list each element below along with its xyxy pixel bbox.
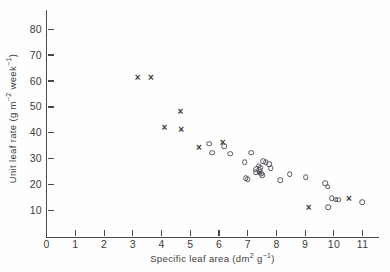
x-tick-label: 1 xyxy=(65,239,85,250)
axis-title-text: Specific leaf area (dm xyxy=(150,253,250,264)
x-tick-label: 10 xyxy=(324,239,344,250)
y-tick xyxy=(48,210,54,211)
y-tick xyxy=(48,158,54,159)
x-tick-label: 2 xyxy=(94,239,114,250)
data-point-cross xyxy=(256,169,264,177)
x-tick-label: 3 xyxy=(123,239,143,250)
x-tick-label: 0 xyxy=(37,239,57,250)
data-point-circle xyxy=(254,166,260,172)
y-tick-label: 60 xyxy=(16,76,42,87)
y-tick-label: 50 xyxy=(16,101,42,112)
data-point-cross xyxy=(219,139,227,147)
data-point-circle xyxy=(325,184,331,190)
x-tick xyxy=(75,230,76,236)
x-tick-label: 6 xyxy=(209,239,229,250)
x-axis-title: Specific leaf area (dm2 g−1) xyxy=(46,253,379,264)
x-tick xyxy=(333,230,334,236)
y-tick-label: 20 xyxy=(16,179,42,190)
data-point-circle xyxy=(221,144,227,150)
x-tick xyxy=(104,230,105,236)
data-point-circle xyxy=(359,200,365,206)
x-tick-label: 11 xyxy=(353,239,373,250)
data-point-circle xyxy=(287,172,293,178)
y-tick-label: 10 xyxy=(16,205,42,216)
x-tick xyxy=(190,230,191,236)
data-point-circle xyxy=(277,177,283,183)
y-tick-label: 80 xyxy=(16,24,42,35)
data-point-circle xyxy=(335,197,341,203)
y-tick xyxy=(48,54,54,55)
data-point-circle xyxy=(303,174,309,180)
data-point-cross xyxy=(345,195,353,203)
axis-title-superscript: −1 xyxy=(263,252,272,259)
y-tick xyxy=(48,80,54,81)
data-point-cross xyxy=(177,126,185,134)
x-tick-label: 4 xyxy=(152,239,172,250)
data-point-circle xyxy=(206,141,212,147)
axis-title-text: g xyxy=(254,253,263,264)
y-tick xyxy=(48,29,54,30)
data-point-circle xyxy=(256,163,262,169)
x-tick-label: 5 xyxy=(180,239,200,250)
data-point-circle xyxy=(248,150,254,156)
axis-title-superscript: −2 xyxy=(5,92,12,101)
x-tick xyxy=(362,230,363,236)
x-tick xyxy=(132,230,133,236)
data-point-circle xyxy=(256,167,262,173)
data-point-circle xyxy=(258,165,264,171)
data-point-circle xyxy=(253,169,259,175)
x-tick-label: 7 xyxy=(238,239,258,250)
x-tick xyxy=(305,230,306,236)
data-point-circle xyxy=(260,159,266,165)
x-tick xyxy=(161,230,162,236)
x-tick-label: 8 xyxy=(266,239,286,250)
y-tick-label: 30 xyxy=(16,153,42,164)
data-point-cross xyxy=(134,74,142,82)
data-point-circle xyxy=(322,180,328,186)
data-point-circle xyxy=(259,173,265,179)
y-axis-title: Unit leaf rate (g m−2 week−1) xyxy=(7,4,18,234)
axis-title-text: ) xyxy=(7,54,18,58)
data-point-circle xyxy=(268,165,274,171)
axis-title-text: Unit leaf rate (g m xyxy=(7,101,18,183)
data-point-circle xyxy=(325,204,331,210)
data-point-circle xyxy=(333,197,339,203)
data-point-circle xyxy=(266,161,272,167)
data-point-circle xyxy=(210,150,216,156)
data-point-circle xyxy=(243,175,249,181)
data-point-circle xyxy=(263,160,269,166)
data-point-cross xyxy=(160,124,168,132)
x-tick xyxy=(276,230,277,236)
x-tick-label: 9 xyxy=(295,239,315,250)
data-point-cross xyxy=(305,204,313,212)
axis-title-text: week xyxy=(7,66,18,93)
y-tick xyxy=(48,184,54,185)
data-point-cross xyxy=(195,144,203,152)
axis-title-superscript: −1 xyxy=(5,57,12,66)
y-tick-label: 70 xyxy=(16,50,42,61)
y-tick xyxy=(48,132,54,133)
data-point-cross xyxy=(147,74,155,82)
x-tick xyxy=(218,230,219,236)
data-point-circle xyxy=(227,151,233,157)
data-point-circle xyxy=(242,160,248,166)
data-point-circle xyxy=(245,176,251,182)
data-point-circle xyxy=(258,171,264,177)
y-axis-line xyxy=(46,10,47,238)
y-tick xyxy=(48,106,54,107)
scatter-plot-figure: 1020304050607080 01234567891011 Specific… xyxy=(0,0,390,272)
y-tick-label: 40 xyxy=(16,127,42,138)
plot-area xyxy=(0,0,390,272)
data-point-cross xyxy=(177,108,185,116)
axis-title-text: ) xyxy=(271,253,275,264)
data-point-circle xyxy=(329,195,335,201)
x-tick xyxy=(247,230,248,236)
